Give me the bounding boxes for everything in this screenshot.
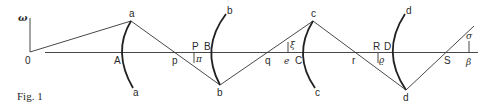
label-xi: ξ <box>290 40 296 50</box>
omega-label: ω <box>18 12 28 23</box>
label-D: D <box>384 41 391 52</box>
label-sigma: σ <box>466 31 473 41</box>
label-b-bottom: b <box>217 87 223 98</box>
diagram-svg: ω 0 a a A p P π B b b q ξ e C c c r R ϱ … <box>0 0 493 108</box>
arc-b <box>211 14 226 85</box>
label-P: P <box>192 41 199 52</box>
label-c-top: c <box>311 8 316 19</box>
label-B: B <box>204 41 211 52</box>
label-e: e <box>284 56 289 66</box>
label-beta: β <box>465 57 471 67</box>
label-b-top: b <box>227 5 233 16</box>
zigzag-path <box>30 21 474 90</box>
label-d-top: d <box>406 5 412 16</box>
label-A: A <box>114 55 121 66</box>
label-S: S <box>444 55 451 66</box>
arc-d <box>393 14 406 90</box>
label-pi: π <box>195 54 203 64</box>
label-rho: ϱ <box>379 55 385 65</box>
label-r: r <box>352 55 356 66</box>
figure-caption: Fig. 1 <box>17 90 43 102</box>
label-c-bottom: c <box>315 87 320 98</box>
label-a-top: a <box>129 8 135 19</box>
arc-c <box>303 21 315 88</box>
label-q: q <box>265 55 271 66</box>
arc-a <box>122 21 133 88</box>
label-p: p <box>172 55 178 66</box>
origin-label: 0 <box>25 55 31 66</box>
figure-canvas: ω 0 a a A p P π B b b q ξ e C c c r R ϱ … <box>0 0 493 108</box>
label-C: C <box>295 55 302 66</box>
label-R: R <box>373 41 380 52</box>
label-d-bottom: d <box>403 92 409 103</box>
label-a-bottom: a <box>133 87 139 98</box>
